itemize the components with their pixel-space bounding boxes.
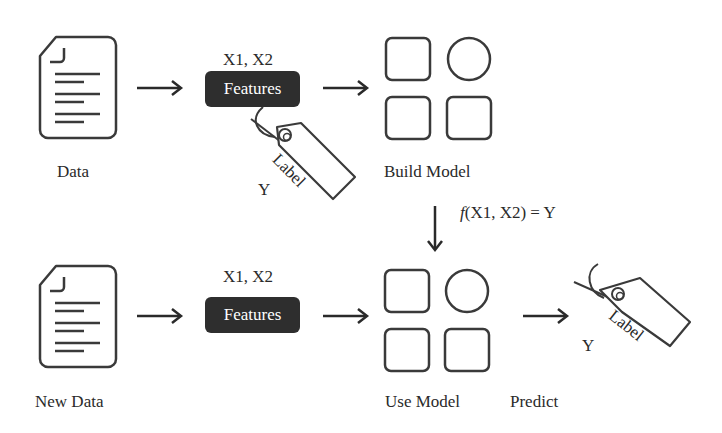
- model-formula: f(X1, X2) = Y: [460, 203, 556, 223]
- arrow-down-icon: [427, 206, 443, 252]
- arrow-right-icon: [323, 80, 369, 96]
- features-header: X1, X2: [223, 267, 273, 287]
- model-grid-icon: [383, 268, 493, 374]
- features-header: X1, X2: [223, 50, 273, 70]
- tag-y: Y: [258, 180, 270, 200]
- predict-label: Predict: [510, 392, 558, 412]
- document-icon: [38, 36, 118, 140]
- new-data-label: New Data: [35, 392, 103, 412]
- arrow-right-icon: [137, 80, 183, 96]
- build-model-label: Build Model: [384, 162, 470, 182]
- features-box: Features: [205, 71, 300, 107]
- features-box: Features: [205, 297, 300, 333]
- arrow-right-icon: [523, 308, 569, 324]
- arrow-right-icon: [323, 308, 369, 324]
- data-label: Data: [57, 162, 89, 182]
- tag-y: Y: [582, 336, 594, 356]
- document-icon: [38, 265, 118, 369]
- arrow-right-icon: [137, 308, 183, 324]
- use-model-label: Use Model: [385, 392, 460, 412]
- model-grid-icon: [384, 36, 494, 142]
- formula-args: (X1, X2) = Y: [465, 203, 556, 222]
